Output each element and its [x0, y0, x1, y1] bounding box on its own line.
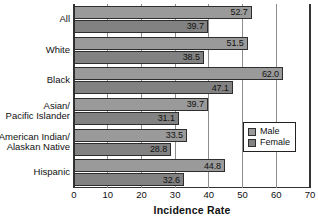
- bar-male: 62.0: [74, 67, 283, 80]
- bar-female: 32.6: [74, 173, 184, 186]
- bar-chart: 52.739.751.538.562.047.139.731.133.528.8…: [0, 0, 318, 220]
- bar-value-label: 44.8: [204, 161, 221, 170]
- bar-rect: 31.1: [74, 112, 179, 125]
- bar-value-label: 39.7: [187, 100, 204, 109]
- bar-value-label: 62.0: [262, 69, 279, 78]
- x-axis-title: Incidence Rate: [74, 204, 310, 216]
- bar-value-label: 47.1: [212, 83, 229, 92]
- category-label: Hispanic: [0, 167, 70, 178]
- x-tick-label: 30: [170, 190, 181, 200]
- bar-female: 31.1: [74, 112, 179, 125]
- bar-rect: 44.8: [74, 159, 225, 172]
- bar-rect: 39.7: [74, 98, 208, 111]
- bar-rect: 33.5: [74, 129, 187, 142]
- bar-female: 38.5: [74, 51, 204, 64]
- category-label: American Indian/ Alaskan Native: [0, 132, 70, 153]
- legend-swatch-female-icon: [248, 139, 256, 147]
- x-tick-label: 0: [71, 190, 76, 200]
- bar-male: 39.7: [74, 98, 208, 111]
- bar-rect: 28.8: [74, 143, 171, 156]
- bar-rect: 47.1: [74, 81, 233, 94]
- bar-value-label: 28.8: [150, 145, 167, 154]
- bar-value-label: 33.5: [166, 131, 183, 140]
- bar-rect: 52.7: [74, 6, 252, 19]
- legend-item-male: Male: [248, 126, 290, 137]
- bar-male: 44.8: [74, 159, 225, 172]
- gridline: [309, 4, 311, 188]
- bar-value-label: 51.5: [227, 39, 244, 48]
- bar-rect: 51.5: [74, 37, 248, 50]
- bar-male: 33.5: [74, 129, 187, 142]
- category-label: All: [0, 14, 70, 25]
- bar-rect: 32.6: [74, 173, 184, 186]
- bar-rect: 38.5: [74, 51, 204, 64]
- bar-female: 39.7: [74, 20, 208, 33]
- x-tick-label: 60: [271, 190, 282, 200]
- bar-value-label: 38.5: [183, 53, 200, 62]
- chart-legend: Male Female: [243, 122, 296, 152]
- x-tick-label: 10: [102, 190, 113, 200]
- category-label: Black: [0, 75, 70, 86]
- bar-value-label: 39.7: [187, 22, 204, 31]
- legend-label-female: Female: [260, 138, 290, 147]
- bar-value-label: 31.1: [158, 114, 175, 123]
- gridline: [242, 4, 243, 188]
- bar-male: 51.5: [74, 37, 248, 50]
- bar-female: 47.1: [74, 81, 233, 94]
- x-tick-label: 40: [204, 190, 215, 200]
- category-label: White: [0, 45, 70, 56]
- legend-item-female: Female: [248, 137, 290, 148]
- gridline: [276, 4, 277, 188]
- bar-rect: 62.0: [74, 67, 283, 80]
- x-tick-label: 70: [305, 190, 316, 200]
- legend-swatch-male-icon: [248, 128, 256, 136]
- category-label: Asian/ Pacific Islander: [0, 101, 70, 122]
- legend-label-male: Male: [260, 127, 280, 136]
- x-tick-label: 20: [136, 190, 147, 200]
- bar-rect: 39.7: [74, 20, 208, 33]
- bar-male: 52.7: [74, 6, 252, 19]
- bar-value-label: 32.6: [163, 175, 180, 184]
- bar-female: 28.8: [74, 143, 171, 156]
- bar-value-label: 52.7: [231, 8, 248, 17]
- x-tick-label: 50: [237, 190, 248, 200]
